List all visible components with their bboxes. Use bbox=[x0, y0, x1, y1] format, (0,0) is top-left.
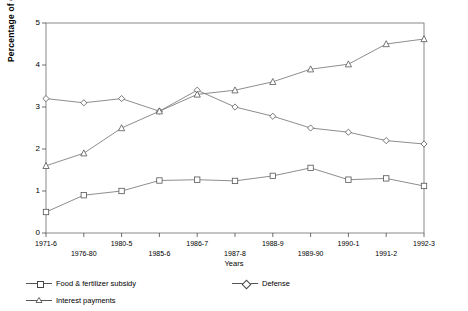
data-point-diamond bbox=[270, 113, 276, 119]
x-tick-label: 1971-6 bbox=[24, 240, 68, 247]
data-point-square bbox=[270, 173, 275, 178]
data-point-square bbox=[346, 177, 351, 182]
x-tick-label: 1985-6 bbox=[137, 250, 181, 257]
data-point-triangle bbox=[43, 163, 49, 169]
data-point-square bbox=[232, 178, 237, 183]
legend-marker-square-icon bbox=[26, 283, 52, 284]
data-point-square bbox=[81, 193, 86, 198]
y-tick-label: 1 bbox=[26, 186, 40, 195]
data-point-square bbox=[119, 188, 124, 193]
x-tick-label: 1989-90 bbox=[289, 250, 333, 257]
x-tick-label: 1987-8 bbox=[213, 250, 257, 257]
y-tick-label: 3 bbox=[26, 102, 40, 111]
x-tick-label: 1991-2 bbox=[364, 250, 408, 257]
legend-marker-diamond-icon bbox=[232, 283, 258, 284]
data-point-square bbox=[384, 176, 389, 181]
x-tick-label: 1980-5 bbox=[100, 240, 144, 247]
legend-item-food-fertilizer-subsidy: Food & fertilizer subsidy bbox=[26, 279, 136, 288]
x-tick-label: 1988-9 bbox=[251, 240, 295, 247]
data-point-diamond bbox=[308, 125, 314, 131]
x-tick-label: 1990-1 bbox=[326, 240, 370, 247]
y-tick-label: 0 bbox=[26, 228, 40, 237]
data-point-diamond bbox=[81, 100, 87, 106]
data-point-square bbox=[157, 178, 162, 183]
data-point-diamond bbox=[383, 138, 389, 144]
data-point-diamond bbox=[43, 96, 49, 102]
legend-item-defense: Defense bbox=[232, 279, 290, 288]
series-line-defense bbox=[46, 90, 424, 144]
data-point-diamond bbox=[119, 96, 125, 102]
y-tick-label: 4 bbox=[26, 60, 40, 69]
x-tick-label: 1992-3 bbox=[402, 240, 446, 247]
data-point-diamond bbox=[421, 141, 427, 147]
data-point-diamond bbox=[345, 129, 351, 135]
x-tick-label: 1986-7 bbox=[175, 240, 219, 247]
data-point-triangle bbox=[421, 36, 427, 42]
legend-marker-triangle-icon bbox=[26, 300, 52, 301]
data-point-square bbox=[308, 165, 313, 170]
data-point-square bbox=[421, 183, 426, 188]
series-line-food-fertilizer-subsidy bbox=[46, 168, 424, 212]
x-axis-title: Years bbox=[0, 259, 468, 268]
legend-item-interest-payments: Interest payments bbox=[26, 296, 116, 305]
data-point-triangle bbox=[81, 150, 87, 156]
data-point-square bbox=[43, 209, 48, 214]
y-tick-label: 2 bbox=[26, 144, 40, 153]
legend-label-interest-payments: Interest payments bbox=[56, 296, 116, 305]
chart-container: Percentage of GDP Years Food & fertilize… bbox=[0, 0, 468, 311]
data-point-diamond bbox=[232, 104, 238, 110]
y-tick-label: 5 bbox=[26, 18, 40, 27]
y-axis-title: Percentage of GDP bbox=[6, 0, 16, 62]
series-line-interest-payments bbox=[46, 39, 424, 166]
legend-label-defense: Defense bbox=[262, 279, 290, 288]
x-tick-label: 1976-80 bbox=[62, 250, 106, 257]
legend-label-food-fertilizer-subsidy: Food & fertilizer subsidy bbox=[56, 279, 136, 288]
data-point-triangle bbox=[270, 79, 276, 85]
data-point-triangle bbox=[345, 61, 351, 67]
data-point-triangle bbox=[119, 125, 125, 131]
data-point-square bbox=[195, 177, 200, 182]
